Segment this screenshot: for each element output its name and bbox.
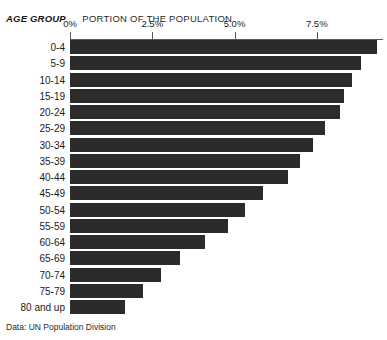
bar — [70, 284, 143, 298]
age-group-label: 5-9 — [51, 57, 65, 70]
x-tick-mark-1 — [152, 32, 153, 39]
age-group-header-label: AGE GROUP — [6, 13, 66, 24]
bar — [70, 235, 205, 249]
x-tick-label-1: 2.5% — [141, 18, 163, 29]
age-group-label: 0-4 — [51, 41, 65, 54]
bar — [70, 300, 125, 314]
bar-row: 75-79 — [0, 284, 387, 300]
bar-row: 45-49 — [0, 186, 387, 202]
age-group-label: 25-29 — [39, 122, 65, 135]
bar-row: 30-34 — [0, 138, 387, 154]
x-tick-mark-0 — [70, 32, 71, 39]
chart-header: AGE GROUP PORTION OF THE POPULATION — [6, 8, 232, 26]
bar — [70, 170, 288, 184]
age-group-label: 80 and up — [21, 301, 66, 314]
bar-row: 65-69 — [0, 251, 387, 267]
age-group-label: 35-39 — [39, 155, 65, 168]
bar — [70, 251, 180, 265]
age-group-label: 10-14 — [39, 74, 65, 87]
age-group-label: 65-69 — [39, 252, 65, 265]
bar-row: 40-44 — [0, 170, 387, 186]
age-group-label: 20-24 — [39, 106, 65, 119]
bar-row: 35-39 — [0, 154, 387, 170]
bar-row: 80 and up — [0, 300, 387, 316]
bar — [70, 186, 263, 200]
bar-row: 50-54 — [0, 203, 387, 219]
age-group-label: 55-59 — [39, 220, 65, 233]
x-tick-label-2: 5.0% — [224, 18, 246, 29]
bar — [70, 105, 340, 119]
bar-row: 10-14 — [0, 73, 387, 89]
bar-row: 70-74 — [0, 268, 387, 284]
age-group-label: 75-79 — [39, 285, 65, 298]
bar — [70, 40, 377, 54]
bar-row: 15-19 — [0, 89, 387, 105]
age-group-label: 70-74 — [39, 269, 65, 282]
bar-row: 60-64 — [0, 235, 387, 251]
x-tick-mark-2 — [235, 32, 236, 39]
bar-row: 0-4 — [0, 40, 387, 56]
bar — [70, 268, 161, 282]
bar — [70, 219, 228, 233]
bar — [70, 138, 313, 152]
bar — [70, 56, 361, 70]
bar — [70, 154, 300, 168]
x-tick-label-3: 7.5% — [306, 18, 328, 29]
bar — [70, 121, 325, 135]
age-group-label: 40-44 — [39, 171, 65, 184]
bar-row: 25-29 — [0, 121, 387, 137]
bar — [70, 203, 245, 217]
age-group-label: 50-54 — [39, 204, 65, 217]
bar — [70, 89, 344, 103]
x-tick-mark-3 — [317, 32, 318, 39]
x-tick-label-0: 0% — [63, 18, 77, 29]
bar-row: 5-9 — [0, 56, 387, 72]
population-age-bar-chart: AGE GROUP PORTION OF THE POPULATION 0%2.… — [0, 0, 387, 340]
age-group-label: 60-64 — [39, 236, 65, 249]
age-group-label: 45-49 — [39, 187, 65, 200]
source-note: Data: UN Population Division — [6, 322, 116, 332]
plot-area: 0-45-910-1415-1920-2425-2930-3435-3940-4… — [0, 40, 387, 318]
age-group-label: 30-34 — [39, 139, 65, 152]
bar-row: 55-59 — [0, 219, 387, 235]
bar — [70, 73, 352, 87]
bar-row: 20-24 — [0, 105, 387, 121]
age-group-label: 15-19 — [39, 90, 65, 103]
